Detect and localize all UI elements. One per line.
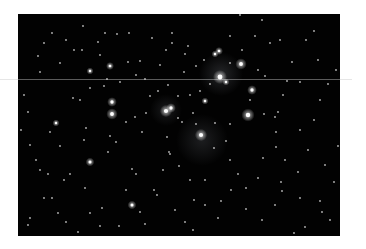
faint-star <box>195 65 197 67</box>
faint-star <box>274 116 276 118</box>
faint-star <box>145 112 147 114</box>
faint-star <box>168 151 170 153</box>
faint-star <box>43 42 45 44</box>
faint-star <box>281 190 283 192</box>
faint-star <box>189 94 191 96</box>
faint-star <box>79 99 81 101</box>
faint-star <box>115 141 117 143</box>
faint-star <box>329 219 331 221</box>
faint-star <box>230 189 232 191</box>
faint-star <box>84 187 86 189</box>
faint-star <box>229 35 231 37</box>
faint-star <box>49 131 51 133</box>
faint-star <box>51 197 53 199</box>
faint-star <box>304 226 306 228</box>
faint-star <box>337 145 339 147</box>
faint-star <box>275 146 277 148</box>
bright-star <box>110 112 114 116</box>
faint-star <box>139 211 141 213</box>
faint-star <box>209 83 211 85</box>
bright-star <box>89 161 92 164</box>
faint-star <box>59 62 61 64</box>
faint-star <box>177 117 179 119</box>
faint-star <box>299 129 301 131</box>
faint-star <box>324 164 326 166</box>
faint-star <box>241 49 243 51</box>
bright-star <box>89 70 91 72</box>
faint-star <box>245 187 247 189</box>
faint-star <box>254 35 256 37</box>
faint-star <box>131 168 133 170</box>
faint-star <box>263 113 265 115</box>
faint-star <box>39 169 41 171</box>
faint-star <box>213 147 215 149</box>
faint-star <box>85 127 87 129</box>
faint-star <box>59 145 61 147</box>
faint-star <box>81 49 83 51</box>
faint-star <box>245 208 247 210</box>
bright-star <box>239 62 243 66</box>
faint-star <box>321 211 323 213</box>
faint-star <box>63 179 65 181</box>
faint-star <box>262 157 264 159</box>
faint-star <box>307 149 309 151</box>
faint-star <box>282 94 284 96</box>
faint-star <box>220 200 222 202</box>
bright-star <box>250 88 253 91</box>
faint-star <box>111 239 113 241</box>
bright-star <box>131 204 134 207</box>
faint-star <box>177 95 179 97</box>
faint-star <box>103 85 105 87</box>
faint-star <box>269 42 271 44</box>
faint-star <box>291 61 293 63</box>
faint-star <box>195 123 197 125</box>
faint-star <box>280 181 282 183</box>
faint-star <box>101 207 103 209</box>
faint-star <box>299 197 301 199</box>
faint-star <box>106 78 108 80</box>
faint-star <box>151 37 153 39</box>
bright-star <box>218 50 221 53</box>
bright-star <box>199 133 203 137</box>
faint-star <box>65 39 67 41</box>
faint-star <box>214 122 216 124</box>
faint-star <box>144 223 146 225</box>
bright-star <box>55 122 57 124</box>
faint-star <box>277 111 279 113</box>
faint-star <box>184 53 186 55</box>
faint-star <box>89 212 91 214</box>
faint-star <box>57 212 59 214</box>
faint-star <box>261 19 263 21</box>
faint-star <box>72 97 74 99</box>
faint-star <box>204 179 206 181</box>
faint-star <box>229 62 231 64</box>
faint-star <box>317 59 319 61</box>
faint-star <box>184 221 186 223</box>
faint-star <box>189 179 191 181</box>
faint-star <box>119 81 121 83</box>
faint-star <box>134 116 136 118</box>
faint-star <box>128 32 130 34</box>
faint-star <box>139 60 141 62</box>
faint-star <box>43 197 45 199</box>
faint-star <box>29 217 31 219</box>
faint-star <box>83 139 85 141</box>
bright-star <box>246 113 251 118</box>
faint-star <box>313 119 315 121</box>
faint-star <box>104 32 106 34</box>
bright-star <box>169 106 172 109</box>
bright-star <box>214 53 216 55</box>
faint-star <box>203 59 205 61</box>
faint-star <box>166 136 168 138</box>
faint-star <box>27 111 29 113</box>
faint-star <box>275 131 277 133</box>
bright-star <box>204 100 206 102</box>
faint-star <box>47 173 49 175</box>
star-field <box>0 0 366 249</box>
faint-star <box>77 231 79 233</box>
faint-star <box>65 221 67 223</box>
faint-star <box>239 14 241 16</box>
bright-star <box>109 65 112 68</box>
faint-star <box>225 140 227 142</box>
faint-star <box>257 177 259 179</box>
